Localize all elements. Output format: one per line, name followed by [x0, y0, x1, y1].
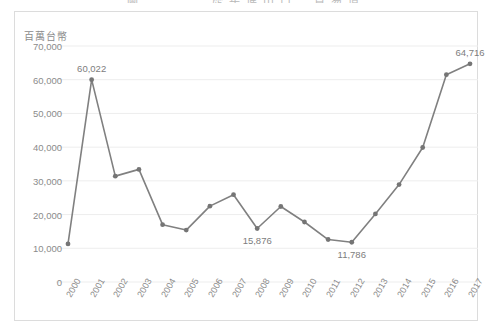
data-point-label: 64,716	[455, 47, 484, 58]
data-point-label: 15,876	[243, 235, 272, 246]
chart-page: 圖一 歷年進出口 貿易值 百萬台幣 010,00020,00030,00040,…	[0, 0, 492, 332]
data-point-label: 11,786	[338, 249, 366, 260]
data-point-labels: 60,02215,87611,78664,716	[0, 0, 492, 332]
data-point-label: 60,022	[77, 63, 106, 74]
